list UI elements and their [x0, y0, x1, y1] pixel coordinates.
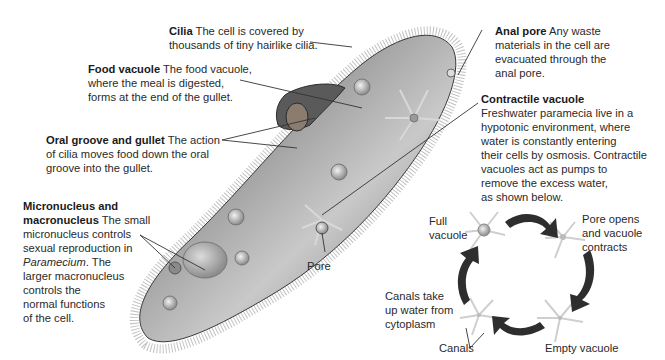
cycle-label-empty-vacuole: Empty vacuole: [545, 341, 618, 355]
anal-pore: [447, 69, 455, 77]
vacuole-cycle: [458, 212, 594, 348]
cycle-label-full-vacuole: Full vacuole: [429, 214, 468, 242]
cycle-label-pore-opens: Pore opens and vacuole contracts: [582, 212, 642, 254]
label-micro-macronucleus: Micronucleus and macronucleus The small …: [23, 199, 153, 325]
label-pore: Pore: [307, 259, 331, 273]
paramecium-diagram: Cilia The cell is covered by thousands o…: [0, 0, 665, 360]
macronucleus: [183, 242, 227, 278]
label-anal-pore: Anal pore Any waste materials in the cel…: [495, 24, 655, 80]
label-cilia: Cilia The cell is covered by thousands o…: [169, 24, 329, 52]
cycle-label-canals-take-up: Canals take up water from cytoplasm: [385, 289, 453, 331]
label-food-vacuole: Food vacuole The food vacuole, where the…: [88, 62, 258, 104]
gullet: [286, 103, 308, 131]
label-contractile-vacuole: Contractile vacuole Freshwater paramecia…: [481, 92, 665, 204]
cycle-label-canals: Canals: [439, 341, 474, 355]
label-oral-groove-gullet: Oral groove and gullet The action of cil…: [46, 133, 226, 175]
